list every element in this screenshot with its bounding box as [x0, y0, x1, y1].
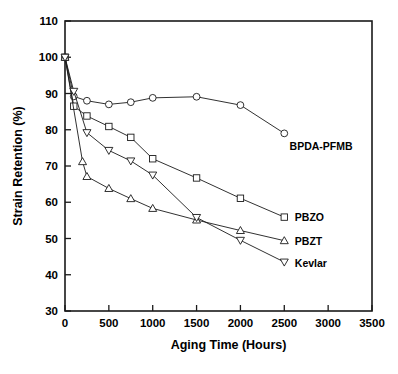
marker-circle [193, 93, 200, 100]
marker-circle [105, 101, 112, 108]
y-tick-label: 80 [45, 124, 58, 136]
y-tick-label: 110 [39, 15, 58, 27]
series-kevlar: Kevlar [61, 54, 327, 269]
series-pbzo: PBZO [62, 54, 324, 223]
marker-circle [237, 102, 244, 109]
marker-triangle-up [149, 204, 157, 211]
series-label-bpda-pfmb: BPDA-PFMB [290, 140, 353, 152]
marker-triangle-up [105, 184, 113, 191]
marker-square [84, 113, 90, 119]
marker-triangle-up [127, 195, 135, 202]
chart-canvas: 0500100015002000250030003500304050607080… [0, 0, 398, 374]
x-tick-label: 1000 [140, 317, 166, 329]
marker-triangle-down [280, 259, 288, 266]
x-tick-label: 3500 [359, 317, 385, 329]
marker-square [237, 195, 243, 201]
series-label-pbzt: PBZT [295, 235, 323, 247]
marker-triangle-down [236, 237, 244, 244]
marker-triangle-down [105, 147, 113, 154]
marker-triangle-up [83, 173, 91, 180]
series-bpda-pfmb: BPDA-PFMB [62, 54, 353, 152]
series-line [65, 57, 284, 133]
y-tick-label: 30 [45, 305, 58, 317]
y-axis-title: Strain Retention (%) [11, 106, 25, 225]
marker-triangle-down [83, 130, 91, 137]
marker-square [281, 214, 287, 220]
x-tick-label: 2500 [271, 317, 297, 329]
marker-square [128, 134, 134, 140]
marker-triangle-up [79, 158, 87, 165]
x-tick-label: 3000 [315, 317, 341, 329]
series-line [65, 57, 284, 262]
x-axis-title: Aging Time (Hours) [171, 338, 287, 352]
marker-circle [127, 99, 134, 106]
x-tick-label: 1500 [184, 317, 210, 329]
series-line [65, 57, 284, 217]
marker-square [150, 156, 156, 162]
y-tick-label: 40 [45, 269, 58, 281]
y-tick-label: 70 [45, 160, 58, 172]
marker-square [106, 123, 112, 129]
x-tick-label: 0 [62, 317, 68, 329]
strain-retention-chart: 0500100015002000250030003500304050607080… [0, 0, 398, 374]
x-tick-label: 500 [99, 317, 118, 329]
marker-circle [84, 97, 91, 104]
marker-triangle-down [127, 158, 135, 165]
marker-circle [281, 130, 288, 137]
y-tick-label: 90 [45, 88, 58, 100]
series-label-kevlar: Kevlar [295, 257, 327, 269]
x-tick-label: 2000 [228, 317, 254, 329]
series-label-pbzo: PBZO [295, 211, 324, 223]
y-tick-label: 50 [45, 233, 58, 245]
marker-square [193, 175, 199, 181]
series-line [65, 57, 284, 240]
y-tick-label: 60 [45, 196, 58, 208]
marker-circle [149, 94, 156, 101]
y-tick-label: 100 [39, 51, 58, 63]
